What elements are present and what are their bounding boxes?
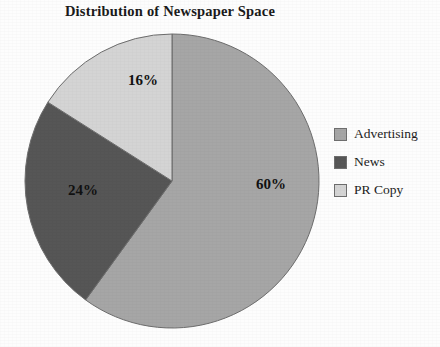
legend-item[interactable]: PR Copy (334, 176, 438, 204)
legend-item-label: News (354, 154, 385, 170)
legend-swatch-icon (334, 128, 347, 141)
pie-slice-label: 60% (256, 176, 286, 192)
chart-legend: AdvertisingNewsPR Copy (334, 120, 438, 204)
legend-swatch-icon (334, 156, 347, 169)
chart-canvas: Distribution of Newspaper Space 60%24%16… (0, 0, 440, 347)
pie-chart: 60%24%16% (24, 33, 320, 329)
legend-item-label: PR Copy (354, 182, 403, 198)
pie-svg: 60%24%16% (24, 33, 320, 329)
pie-slice-label: 16% (128, 72, 158, 88)
legend-item[interactable]: News (334, 148, 438, 176)
page-title: Distribution of Newspaper Space (0, 3, 340, 20)
legend-item-label: Advertising (354, 126, 418, 142)
legend-swatch-icon (334, 184, 347, 197)
pie-slice-label: 24% (68, 182, 98, 198)
legend-item[interactable]: Advertising (334, 120, 438, 148)
